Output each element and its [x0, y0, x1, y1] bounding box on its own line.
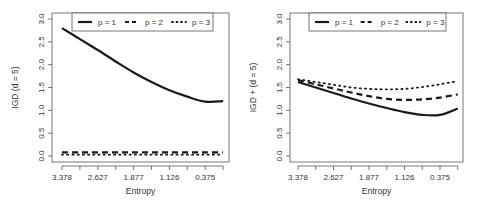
y-tick-label: 1.0: [37, 104, 46, 116]
series-group: [298, 79, 458, 115]
legend-label: p = 3: [426, 18, 445, 27]
y-tick-label: 2.5: [275, 36, 284, 48]
series-line-p=1: [62, 28, 223, 102]
x-axis: 3.3782.6271.8771.1260.375: [52, 166, 223, 182]
y-tick-label: 3.0: [37, 13, 46, 25]
legend: p = 1p = 2p = 3: [309, 13, 446, 31]
x-tick-label: 1.126: [159, 173, 180, 182]
x-axis: 3.3782.6271.8771.1260.375: [288, 166, 458, 182]
y-axis: 0.00.51.01.52.02.53.0: [275, 13, 290, 162]
series-line-p=3: [298, 79, 458, 89]
x-tick-label: 1.877: [359, 173, 380, 182]
legend-label: p = 2: [381, 18, 400, 27]
y-tick-label: 2.5: [37, 36, 46, 48]
y-tick-label: 2.0: [37, 59, 46, 71]
x-axis-title: Entropy: [362, 186, 392, 196]
legend-label: p = 1: [335, 18, 354, 27]
series-group: [62, 28, 223, 154]
y-tick-label: 0.5: [37, 127, 46, 139]
chart-canvas: 0.00.51.01.52.02.53.03.3782.6271.8771.12…: [0, 0, 479, 210]
x-tick-label: 3.378: [288, 173, 309, 182]
x-tick-label: 1.877: [124, 173, 145, 182]
legend: p = 1p = 2p = 3: [72, 13, 213, 31]
x-tick-label: 0.375: [430, 173, 451, 182]
x-tick-label: 2.627: [88, 173, 109, 182]
x-tick-label: 2.627: [323, 173, 344, 182]
plot-panel-1: 0.00.51.01.52.02.53.03.3782.6271.8771.12…: [10, 13, 229, 196]
legend-label: p = 1: [98, 18, 117, 27]
legend-label: p = 2: [145, 18, 164, 27]
y-tick-label: 0.0: [275, 150, 284, 162]
plot-panel-2: 0.00.51.01.52.02.53.03.3782.6271.8771.12…: [248, 13, 463, 196]
figure: 0.00.51.01.52.02.53.03.3782.6271.8771.12…: [0, 0, 479, 210]
y-axis-title: IGD (d = 5): [10, 66, 20, 108]
y-tick-label: 0.5: [275, 127, 284, 139]
legend-label: p = 3: [192, 18, 211, 27]
y-tick-label: 1.5: [37, 81, 46, 93]
x-tick-label: 3.378: [52, 173, 73, 182]
y-tick-label: 3.0: [275, 13, 284, 25]
y-tick-label: 0.0: [37, 150, 46, 162]
y-axis-title: IGD + (d = 5): [248, 63, 258, 113]
y-tick-label: 1.5: [275, 81, 284, 93]
y-tick-label: 1.0: [275, 104, 284, 116]
x-axis-title: Entropy: [126, 186, 156, 196]
y-tick-label: 2.0: [275, 59, 284, 71]
y-axis: 0.00.51.01.52.02.53.0: [37, 13, 52, 162]
plot-frame: [52, 13, 229, 162]
x-tick-label: 0.375: [195, 173, 216, 182]
x-tick-label: 1.126: [394, 173, 415, 182]
